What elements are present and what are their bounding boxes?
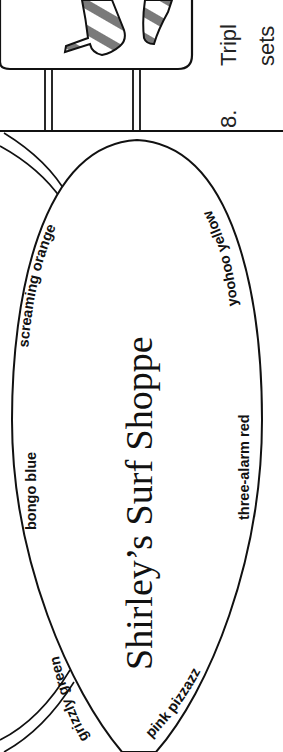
worksheet-figure: 8. Tripl sets screaming orange yoohoo ye… xyxy=(0,0,283,752)
question-number: 8. xyxy=(216,110,241,128)
question-8: 8. Tripl sets xyxy=(216,24,279,128)
label-three-alarm-red: three-alarm red xyxy=(236,414,252,520)
label-bongo-blue: bongo blue xyxy=(23,452,39,530)
surfboard-title: Shirley’s Surf Shoppe xyxy=(118,336,160,670)
question-line-1: Tripl xyxy=(216,24,241,66)
question-line-2: sets xyxy=(254,26,279,66)
